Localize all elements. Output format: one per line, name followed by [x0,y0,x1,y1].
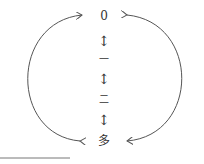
node-zero: 0 [96,9,112,23]
node-two: 二 [96,93,112,107]
right-curved-arrow [127,15,182,141]
bidirectional-arrow-icon: ↕ [96,34,112,48]
bidirectional-arrow-icon: ↕ [96,72,112,86]
node-one: 一 [96,53,112,67]
left-curved-arrow [28,15,82,141]
node-many: 多 [96,134,112,148]
bidirectional-arrow-icon: ↕ [96,113,112,127]
